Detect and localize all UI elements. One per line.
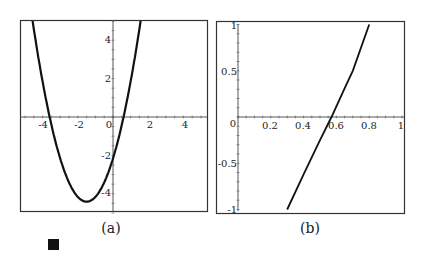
plot-b-y-minor-ticks <box>237 25 240 210</box>
plot-b-ytick-label: 0.5 <box>221 66 237 77</box>
plot-b-xtick-label: 0.8 <box>361 120 377 131</box>
plot-b-xtick-label: 0 <box>230 118 236 129</box>
end-of-proof-square-icon <box>48 239 59 250</box>
plot-b-xtick-label: 1 <box>398 120 404 131</box>
plot-b-x-minor-ticks <box>238 116 402 119</box>
plot-a-ytick-label: 2 <box>105 73 111 84</box>
figure: -4 -2 0 2 4 4 2 -2 -4 (a) 0 0.2 0.4 0.6 … <box>0 0 423 257</box>
plot-a-xtick-label: 4 <box>182 119 188 130</box>
plot-a-xtick-label: -4 <box>38 119 48 130</box>
plot-a-ytick-label: -2 <box>101 150 111 161</box>
plot-b-ytick-label: -0.5 <box>218 158 237 169</box>
panel-a: -4 -2 0 2 4 4 2 -2 -4 (a) <box>20 0 208 236</box>
plot-a-xtick-label: 0 <box>106 119 112 130</box>
plot-b-xtick-label: 0.6 <box>328 120 344 131</box>
plot-b-xtick-label: 0.2 <box>262 120 278 131</box>
plot-b-caption: (b) <box>300 220 320 236</box>
plot-a-caption: (a) <box>101 220 120 236</box>
plot-a-xtick-label: -2 <box>74 119 84 130</box>
plot-b-frame <box>217 22 405 214</box>
plot-a-ytick-label: 4 <box>105 34 111 45</box>
plot-a-y-minor-ticks <box>112 21 115 213</box>
plot-a-xtick-label: 2 <box>147 119 153 130</box>
plot-b-xtick-label: 0.4 <box>295 120 311 131</box>
plot-b-ytick-label: -1 <box>227 204 237 215</box>
plot-a-ytick-label: -4 <box>101 187 111 198</box>
plot-b-ytick-label: 1 <box>231 20 237 31</box>
panel-b: 0 0.2 0.4 0.6 0.8 1 1 0.5 -0.5 -1 (b) <box>217 20 405 236</box>
